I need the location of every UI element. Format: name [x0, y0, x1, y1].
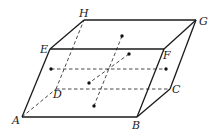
parallelepiped-diagram: A B C D E F G H	[0, 0, 217, 139]
vertex-label-G: G	[199, 15, 208, 28]
segment-front-back-centers	[89, 54, 129, 83]
top-face-center-dot	[120, 34, 123, 37]
right-face-center-dot	[164, 67, 167, 70]
edge-CG	[170, 20, 196, 89]
edge-HE	[50, 20, 84, 49]
vertex-label-C: C	[172, 83, 181, 96]
segment-top-bottom-centers	[94, 36, 122, 106]
vertex-label-F: F	[162, 49, 171, 62]
vertex-label-A: A	[11, 114, 20, 127]
vertex-label-B: B	[131, 119, 140, 132]
front-face-center-dot	[87, 81, 90, 84]
vertex-label-H: H	[78, 7, 89, 20]
edge-BF	[137, 49, 164, 117]
edge-DH-hidden	[56, 20, 84, 89]
vertex-label-D: D	[52, 88, 62, 101]
left-face-center-dot	[49, 67, 52, 70]
bottom-face-center-dot	[92, 104, 95, 107]
face-center-dots	[49, 34, 167, 107]
vertex-label-E: E	[39, 43, 48, 56]
edge-AE	[22, 49, 50, 117]
back-face-center-dot	[127, 52, 130, 55]
